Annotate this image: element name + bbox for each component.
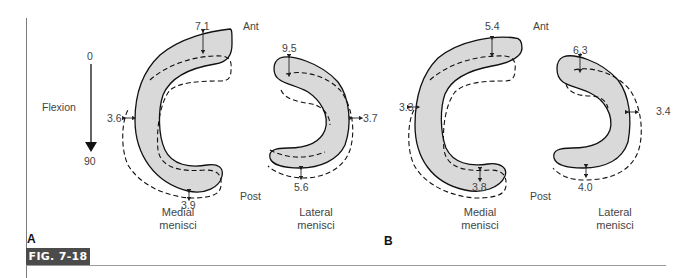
caption-line: menisci: [152, 219, 204, 232]
caption-line: Lateral: [290, 206, 342, 219]
panel-b-lateral-peripheral-value: 3.4: [656, 105, 671, 117]
caption-line: Medial: [152, 206, 204, 219]
panel-a-ant-label: Ant: [243, 20, 259, 32]
flexion-end-label: 90: [84, 155, 96, 167]
caption-line: Lateral: [589, 206, 641, 219]
panel-b-letter: B: [384, 234, 393, 248]
panel-a-medial-anterior-value: 7.1: [195, 20, 210, 32]
caption-line: menisci: [589, 219, 641, 232]
panel-a-lateral-peripheral-value: 3.7: [363, 112, 378, 124]
caption-line: menisci: [290, 219, 342, 232]
panel-b-medial-meniscus: [409, 37, 522, 198]
caption-line: Medial: [454, 206, 506, 219]
flexion-start-label: 0: [87, 50, 93, 62]
caption-line: menisci: [454, 219, 506, 232]
panel-a-lateral-caption: Lateral menisci: [290, 206, 342, 232]
panel-b-medial-anterior-value: 5.4: [485, 20, 500, 32]
panel-b-lateral-anterior-value: 6.3: [573, 44, 588, 56]
panel-a-lateral-posterior-value: 5.6: [294, 181, 309, 193]
panel-b-medial-caption: Medial menisci: [454, 206, 506, 232]
panel-a-medial-meniscus: [123, 29, 232, 199]
panel-b-ant-label: Ant: [533, 20, 549, 32]
flexion-label: Flexion: [42, 101, 76, 113]
panel-a-letter: A: [27, 232, 36, 246]
flexion-arrow-icon: [85, 64, 97, 152]
menisci-diagram: [0, 0, 698, 278]
panel-a-lateral-meniscus: [268, 56, 361, 178]
panel-b-post-label: Post: [530, 190, 551, 202]
panel-a-lateral-anterior-value: 9.5: [282, 42, 297, 54]
figure-label-badge: FIG. 7-18: [26, 248, 90, 265]
panel-b-medial-posterior-value: 3.8: [472, 181, 487, 193]
panel-b-medial-peripheral-value: 3.3: [399, 101, 414, 113]
panel-b-lateral-caption: Lateral menisci: [589, 206, 641, 232]
panel-b-lateral-meniscus: [553, 56, 641, 180]
panel-b-lateral-posterior-value: 4.0: [578, 181, 593, 193]
panel-a-post-label: Post: [240, 190, 261, 202]
panel-a-medial-peripheral-value: 3.6: [107, 112, 122, 124]
panel-a-medial-caption: Medial menisci: [152, 206, 204, 232]
